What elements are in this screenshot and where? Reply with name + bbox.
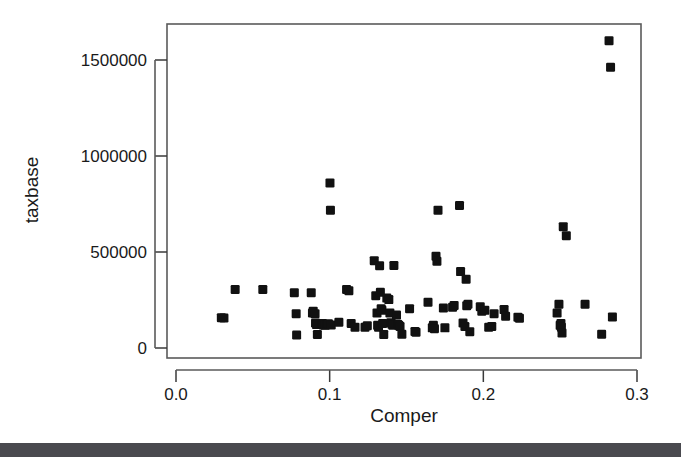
data-point [231, 285, 240, 294]
data-point [327, 320, 336, 329]
x-tick-label: 0.1 [318, 385, 342, 404]
data-point [392, 310, 401, 319]
data-point [462, 275, 471, 284]
data-point [397, 330, 406, 339]
data-point [258, 285, 267, 294]
data-point [439, 304, 448, 313]
bottom-decorative-bar [0, 443, 681, 457]
data-point [463, 300, 472, 309]
scatter-plot-figure: 050000010000001500000 0.00.10.20.3 taxba… [0, 0, 681, 443]
data-point [389, 261, 398, 270]
data-point [553, 309, 562, 318]
data-point [405, 304, 414, 313]
data-point [515, 314, 524, 323]
data-point [375, 261, 384, 270]
data-point [487, 322, 496, 331]
x-tick-label: 0.3 [625, 385, 649, 404]
data-point [440, 323, 449, 332]
data-point [334, 318, 343, 327]
data-point [608, 312, 617, 321]
data-point [597, 330, 606, 339]
data-point [363, 321, 372, 330]
data-point [325, 178, 334, 187]
data-point [290, 288, 299, 297]
data-point [412, 328, 421, 337]
data-point [432, 257, 441, 266]
data-point [456, 267, 465, 276]
data-point [480, 306, 489, 315]
data-point [219, 314, 228, 323]
data-point [450, 301, 459, 310]
x-axis-title: Comper [370, 405, 438, 426]
data-point [384, 295, 393, 304]
scatter-plot-canvas: 050000010000001500000 0.00.10.20.3 taxba… [0, 0, 681, 443]
y-tick-label: 500000 [90, 243, 147, 262]
data-point [344, 286, 353, 295]
data-point [559, 222, 568, 231]
data-point [434, 206, 443, 215]
data-point [396, 322, 405, 331]
data-point [606, 63, 615, 72]
data-point [562, 231, 571, 240]
y-tick-label: 1000000 [81, 147, 147, 166]
y-axis-title: taxbase [21, 157, 42, 224]
data-point [455, 201, 464, 210]
data-point [581, 300, 590, 309]
data-point [501, 312, 510, 321]
y-axis-ticks: 050000010000001500000 [81, 51, 167, 358]
data-point [292, 309, 301, 318]
data-point [605, 36, 614, 45]
data-point [311, 309, 320, 318]
x-axis-ticks: 0.00.10.20.3 [164, 370, 649, 404]
data-point [424, 298, 433, 307]
x-tick-label: 0.2 [472, 385, 496, 404]
data-point [377, 306, 386, 315]
data-point-group [217, 36, 617, 339]
data-point [430, 324, 439, 333]
data-point [558, 329, 567, 338]
data-point [379, 330, 388, 339]
data-point [351, 323, 360, 332]
data-point [307, 288, 316, 297]
data-point [490, 309, 499, 318]
data-point [292, 330, 301, 339]
data-point [465, 327, 474, 336]
plot-frame-box [167, 24, 641, 358]
data-point [554, 300, 563, 309]
data-point [378, 319, 387, 328]
y-tick-label: 0 [138, 339, 147, 358]
data-point [313, 330, 322, 339]
y-tick-label: 1500000 [81, 51, 147, 70]
x-tick-label: 0.0 [164, 385, 188, 404]
data-point [326, 206, 335, 215]
